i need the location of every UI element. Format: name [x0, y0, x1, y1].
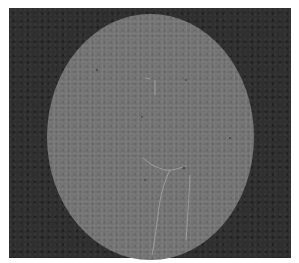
dark-speck — [183, 167, 186, 170]
dark-speck — [141, 116, 143, 118]
dark-speck — [144, 179, 146, 181]
dark-speck — [96, 69, 98, 71]
fiber-short-tick — [145, 78, 150, 79]
dark-speck — [185, 79, 187, 81]
fiber-right-strand — [186, 175, 190, 240]
fiber-curve — [143, 158, 186, 170]
fiber-overlay — [0, 0, 299, 263]
fiber-left-strand — [152, 170, 170, 255]
dark-speck — [229, 137, 231, 139]
